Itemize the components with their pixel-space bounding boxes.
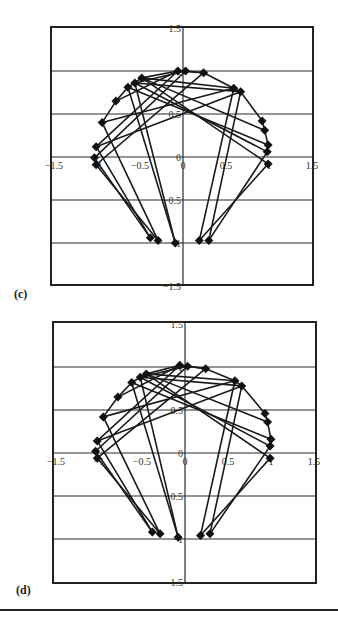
network-edges	[96, 365, 271, 537]
y-tick-label: 0	[178, 448, 183, 459]
x-tick-label: 1.5	[308, 456, 321, 467]
y-tick-label: 1.5	[171, 319, 184, 330]
diamond-marker-icon	[267, 435, 276, 444]
network-plot-d: −1.5−1−0.500.511.51.510.50−0.5−1−1.5	[0, 0, 338, 605]
chart-panel-d: −1.5−1−0.500.511.51.510.50−0.5−1−1.5 (d)	[0, 0, 338, 605]
y-tick-label: −1.5	[165, 577, 183, 588]
diamond-marker-icon	[263, 418, 272, 427]
x-tick-label: 0.5	[222, 456, 235, 467]
diamond-marker-icon	[266, 442, 275, 451]
panel-label-d: (d)	[16, 583, 31, 598]
x-tick-label: −0.5	[133, 456, 151, 467]
x-tick-label: −1.5	[47, 456, 65, 467]
x-tick-label: 0	[183, 456, 188, 467]
bottom-rule	[0, 609, 338, 611]
diamond-marker-icon	[205, 529, 214, 538]
